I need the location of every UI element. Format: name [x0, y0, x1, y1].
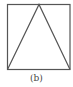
figure-caption: (b) — [0, 73, 73, 83]
square-outline — [8, 5, 71, 70]
triangle-outline — [8, 5, 71, 70]
